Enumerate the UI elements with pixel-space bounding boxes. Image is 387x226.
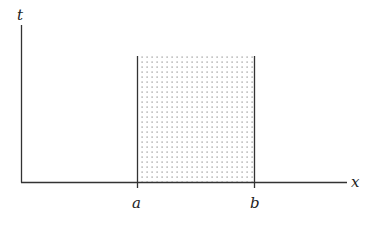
x-axis-label: x [351,173,360,191]
t-axis-label: t [17,6,24,24]
marker-b-label: b [250,194,260,212]
diagram-canvas: t x a b [0,0,387,226]
marker-a-label: a [132,194,141,212]
shaded-region [137,56,254,182]
